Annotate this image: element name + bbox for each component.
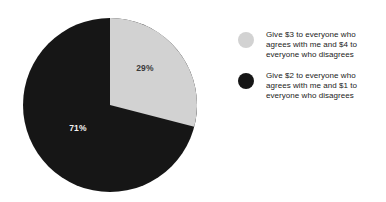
legend-item-light[interactable]: Give $3 to everyone who agrees with me a… (238, 30, 386, 61)
pie-chart: 29% 71% (23, 18, 197, 192)
legend-swatch-circle-icon (238, 32, 254, 48)
legend-swatch-circle-icon (238, 73, 254, 89)
legend-line-1: Give $2 to everyone who (266, 71, 356, 80)
legend-line-1: Give $3 to everyone who (266, 30, 356, 39)
legend-line-3: everyone who disagrees (266, 91, 354, 100)
legend-line-3: everyone who disagrees (266, 50, 354, 59)
pie-chart-svg (23, 18, 197, 192)
pie-slice-label-light: 29% (136, 63, 154, 73)
legend-item-label: Give $3 to everyone who agrees with me a… (266, 30, 357, 61)
pie-slice-label-dark: 71% (69, 123, 87, 133)
chart-legend: Give $3 to everyone who agrees with me a… (238, 30, 386, 111)
legend-line-2: agrees with me and $4 to (266, 40, 357, 49)
pie-chart-figure: 29% 71% Give $3 to everyone who agrees w… (0, 0, 386, 202)
legend-item-dark[interactable]: Give $2 to everyone who agrees with me a… (238, 71, 386, 102)
legend-line-2: agrees with me and $1 to (266, 81, 357, 90)
legend-item-label: Give $2 to everyone who agrees with me a… (266, 71, 357, 102)
